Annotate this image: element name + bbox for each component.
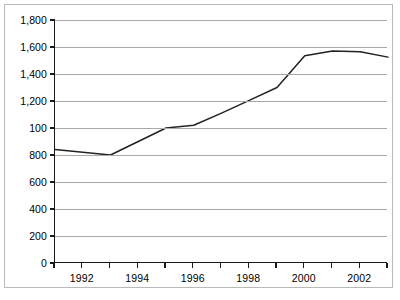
y-tick-label: 600 [29, 176, 47, 188]
gridline [55, 47, 387, 48]
gridline [55, 155, 387, 156]
x-tick-mark [248, 263, 249, 268]
x-tick-mark [192, 263, 193, 268]
y-tick-mark [50, 46, 55, 48]
x-tick-label: 1994 [125, 272, 149, 284]
y-tick-label: 1,200 [20, 95, 47, 107]
y-tick-mark [50, 127, 55, 129]
x-axis: 199219941996199820002002 [54, 263, 387, 293]
y-tick-label: 100 [29, 122, 47, 134]
x-tick-mark [53, 263, 54, 268]
x-tick-mark [359, 263, 360, 268]
x-tick-mark [275, 263, 276, 268]
x-tick-mark [386, 263, 387, 268]
y-tick-mark [50, 235, 55, 237]
x-tick-mark [303, 263, 304, 268]
x-tick-mark [220, 263, 221, 268]
x-tick-mark [137, 263, 138, 268]
y-tick-label: 400 [29, 203, 47, 215]
y-tick-mark [50, 154, 55, 156]
x-tick-mark [109, 263, 110, 268]
y-axis: 02004006008001001,2001,4001,6001,800 [5, 20, 47, 263]
x-tick-mark [331, 263, 332, 268]
gridline [55, 236, 387, 237]
y-tick-label: 1,800 [20, 14, 47, 26]
gridline [55, 101, 387, 102]
y-tick-label: 1,600 [20, 41, 47, 53]
x-tick-mark [164, 263, 165, 268]
y-tick-label: 0 [41, 257, 47, 269]
x-tick-label: 1996 [181, 272, 205, 284]
data-line-series [55, 20, 388, 263]
gridline [55, 20, 387, 21]
plot-area [54, 20, 387, 263]
gridline [55, 128, 387, 129]
y-tick-mark [50, 100, 55, 102]
gridline [55, 209, 387, 210]
chart-figure-frame: 02004006008001001,2001,4001,6001,800 199… [4, 4, 393, 288]
gridline [55, 182, 387, 183]
y-tick-label: 800 [29, 149, 47, 161]
y-tick-label: 1,400 [20, 68, 47, 80]
x-tick-label: 1998 [236, 272, 260, 284]
y-tick-mark [50, 208, 55, 210]
y-tick-label: 200 [29, 230, 47, 242]
x-tick-label: 2002 [347, 272, 371, 284]
y-tick-mark [50, 73, 55, 75]
x-tick-label: 1992 [70, 272, 94, 284]
gridline [55, 74, 387, 75]
x-tick-mark [81, 263, 82, 268]
x-tick-label: 2000 [292, 272, 316, 284]
y-tick-mark [50, 19, 55, 21]
y-tick-mark [50, 181, 55, 183]
data-line-path [55, 51, 388, 155]
